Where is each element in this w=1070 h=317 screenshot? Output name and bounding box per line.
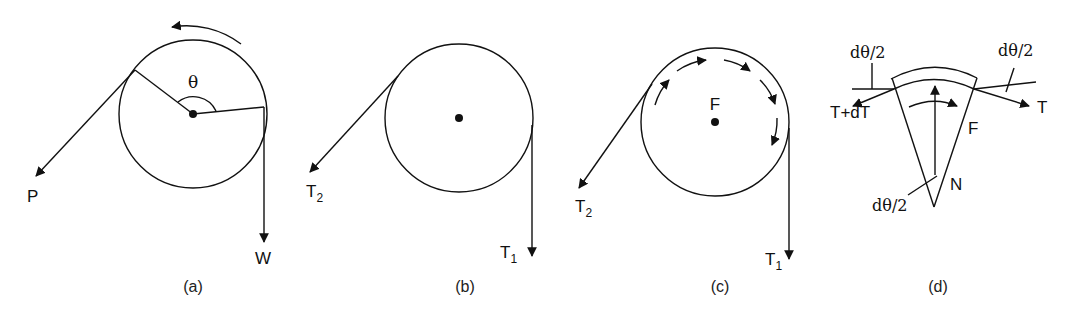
wedge-left-edge: [892, 78, 934, 207]
normal-force-label: N: [950, 175, 962, 194]
reference-line-right: [974, 82, 1036, 89]
weight-w-label: W: [255, 249, 271, 268]
theta-label: θ: [188, 72, 198, 92]
tension-t1-label-c: T1: [765, 250, 782, 273]
pulley-center-b: [455, 114, 463, 122]
force-p-label: P: [27, 187, 38, 206]
tension-t-arrow: [974, 89, 1029, 106]
angle-label-top-left: dθ/2: [850, 43, 885, 62]
tension-t-plus-dt-label: T+dT: [830, 103, 870, 122]
panel-c: F T2 T1 (c): [575, 48, 789, 295]
tension-t2-label-b: T2: [306, 182, 323, 205]
angle-leader-top-right: [1006, 68, 1014, 92]
angle-label-bottom: dθ/2: [872, 196, 907, 215]
radius-line-right: [193, 107, 264, 114]
element-outer-arc: [891, 67, 977, 79]
friction-label-d: F: [968, 119, 978, 138]
pulley-center-c: [711, 118, 719, 126]
friction-label-c: F: [710, 95, 720, 114]
tension-t1-label-b: T1: [500, 243, 517, 266]
rope-arc: [894, 80, 974, 90]
radius-line-left: [135, 70, 193, 114]
tension-t-label: T: [1037, 98, 1047, 117]
caption-b: (b): [455, 278, 475, 295]
angle-label-top-right: dθ/2: [998, 41, 1033, 60]
panel-b: T2 T1 (b): [306, 44, 533, 295]
tension-t2-arrow-c: [579, 84, 652, 188]
theta-arc: [178, 97, 216, 111]
panel-d: T+dT T N F dθ/2 dθ/2 dθ/2 (d): [830, 41, 1047, 295]
capstan-diagram: θ P W (a) T2 T1 (b) F T2: [0, 0, 1070, 317]
panel-a: θ P W (a): [27, 26, 271, 295]
caption-d: (d): [928, 278, 948, 295]
tension-t2-label-c: T2: [575, 197, 592, 220]
caption-c: (c): [711, 278, 730, 295]
caption-a: (a): [183, 278, 203, 295]
angle-leader-bottom: [908, 176, 937, 195]
friction-arrow-d: [909, 101, 957, 107]
